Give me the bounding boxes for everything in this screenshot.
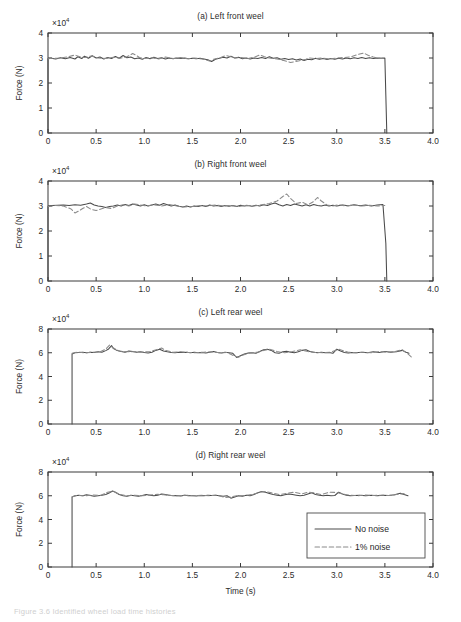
y-axis-exponent: ×104 <box>52 17 69 28</box>
svg-text:2: 2 <box>38 226 43 236</box>
svg-text:3.0: 3.0 <box>331 427 343 437</box>
svg-text:2: 2 <box>38 395 43 405</box>
svg-text:6: 6 <box>38 491 43 501</box>
svg-text:4.0: 4.0 <box>427 427 439 437</box>
svg-text:1.0: 1.0 <box>138 427 150 437</box>
svg-text:2.5: 2.5 <box>283 570 295 580</box>
svg-text:4: 4 <box>38 372 43 382</box>
svg-text:Force (N): Force (N) <box>14 213 24 248</box>
svg-text:2.5: 2.5 <box>283 427 295 437</box>
svg-text:2.0: 2.0 <box>235 284 247 294</box>
svg-text:3.0: 3.0 <box>331 570 343 580</box>
svg-text:0: 0 <box>38 562 43 572</box>
svg-text:3: 3 <box>38 201 43 211</box>
exponent-power: 4 <box>66 17 69 23</box>
svg-text:Force (N): Force (N) <box>14 65 24 100</box>
svg-text:3.5: 3.5 <box>379 570 391 580</box>
svg-text:0: 0 <box>38 276 43 286</box>
svg-text:1.0: 1.0 <box>138 284 150 294</box>
plot-area: 0246800.51.01.52.02.53.03.54.0Force (N)T… <box>0 447 461 615</box>
svg-text:2: 2 <box>38 78 43 88</box>
svg-text:Force (N): Force (N) <box>14 359 24 394</box>
svg-text:4: 4 <box>38 28 43 38</box>
exponent-prefix: ×10 <box>52 457 66 467</box>
plot-area: 0123400.51.01.52.02.53.03.54.0Force (N) <box>0 8 461 153</box>
svg-text:0: 0 <box>38 128 43 138</box>
svg-text:6: 6 <box>38 348 43 358</box>
svg-text:Time (s): Time (s) <box>225 586 255 596</box>
svg-text:No noise: No noise <box>355 524 389 534</box>
svg-text:8: 8 <box>38 467 43 477</box>
exponent-power: 4 <box>66 165 69 171</box>
svg-text:Force (N): Force (N) <box>14 502 24 537</box>
exponent-power: 4 <box>66 313 69 319</box>
exponent-prefix: ×10 <box>52 314 66 324</box>
svg-text:4.0: 4.0 <box>427 570 439 580</box>
svg-text:2.0: 2.0 <box>235 427 247 437</box>
svg-text:0: 0 <box>46 427 51 437</box>
svg-text:2.0: 2.0 <box>235 136 247 146</box>
svg-text:0: 0 <box>46 136 51 146</box>
svg-text:1: 1 <box>38 103 43 113</box>
svg-text:8: 8 <box>38 324 43 334</box>
svg-text:1.5: 1.5 <box>187 570 199 580</box>
svg-text:0.5: 0.5 <box>90 136 102 146</box>
exponent-prefix: ×10 <box>52 18 66 28</box>
svg-text:4: 4 <box>38 515 43 525</box>
svg-text:1.0: 1.0 <box>138 136 150 146</box>
svg-text:2.0: 2.0 <box>235 570 247 580</box>
svg-text:3.5: 3.5 <box>379 136 391 146</box>
svg-text:1.0: 1.0 <box>138 570 150 580</box>
svg-text:0: 0 <box>46 284 51 294</box>
svg-text:4: 4 <box>38 176 43 186</box>
y-axis-exponent: ×104 <box>52 456 69 467</box>
svg-text:3.5: 3.5 <box>379 427 391 437</box>
figure-container: 0123400.51.01.52.02.53.03.54.0Force (N)(… <box>0 0 461 622</box>
svg-text:0.5: 0.5 <box>90 284 102 294</box>
svg-text:0: 0 <box>38 419 43 429</box>
y-axis-exponent: ×104 <box>52 313 69 324</box>
y-axis-exponent: ×104 <box>52 165 69 176</box>
svg-text:2: 2 <box>38 538 43 548</box>
svg-text:3.0: 3.0 <box>331 284 343 294</box>
svg-text:2.5: 2.5 <box>283 136 295 146</box>
exponent-power: 4 <box>66 456 69 462</box>
svg-text:0: 0 <box>46 570 51 580</box>
svg-text:1.5: 1.5 <box>187 284 199 294</box>
svg-text:4.0: 4.0 <box>427 136 439 146</box>
exponent-prefix: ×10 <box>52 166 66 176</box>
svg-text:0.5: 0.5 <box>90 570 102 580</box>
svg-text:2.5: 2.5 <box>283 284 295 294</box>
svg-text:1.5: 1.5 <box>187 427 199 437</box>
figure-caption: Figure 3.6 Identified wheel load time hi… <box>14 607 444 616</box>
svg-text:0.5: 0.5 <box>90 427 102 437</box>
plot-area: 0246800.51.01.52.02.53.03.54.0Force (N) <box>0 304 461 444</box>
svg-text:1% noise: 1% noise <box>355 542 391 552</box>
plot-area: 0123400.51.01.52.02.53.03.54.0Force (N) <box>0 156 461 301</box>
svg-text:4.0: 4.0 <box>427 284 439 294</box>
svg-text:1: 1 <box>38 251 43 261</box>
svg-text:1.5: 1.5 <box>187 136 199 146</box>
svg-text:3.0: 3.0 <box>331 136 343 146</box>
svg-text:3: 3 <box>38 53 43 63</box>
svg-text:3.5: 3.5 <box>379 284 391 294</box>
